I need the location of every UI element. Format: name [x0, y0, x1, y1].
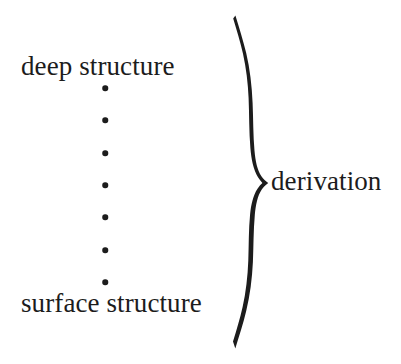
- derivation-step-dot: [102, 150, 108, 156]
- derivation-step-dot: [102, 85, 108, 91]
- derivation-step-dot: [102, 117, 108, 123]
- derivation-step-dot: [102, 247, 108, 253]
- derivation-label: derivation: [271, 168, 381, 195]
- derivation-step-dot: [102, 182, 108, 188]
- derivation-diagram: deep structure surface structure derivat…: [0, 0, 401, 364]
- surface-structure-label: surface structure: [21, 290, 202, 317]
- derivation-step-dot: [102, 279, 108, 285]
- derivation-step-dot: [102, 214, 108, 220]
